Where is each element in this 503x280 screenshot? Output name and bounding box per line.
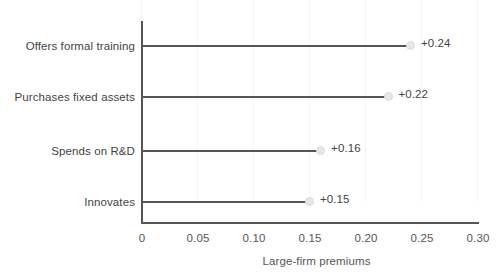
stem-0 [141,45,411,47]
y-axis-label-3: Innovates [0,196,135,208]
stem-2 [141,150,321,152]
stem-1 [141,96,388,98]
data-point-marker-1[interactable] [384,92,393,101]
value-label-1: +0.22 [399,88,429,100]
plot-area: +0.24 +0.22 +0.16 +0.15 [141,21,478,223]
x-tick-label-0: 0 [139,232,146,244]
data-point-marker-0[interactable] [406,41,415,50]
x-tick-label-3: 0.15 [299,232,322,244]
value-label-2: +0.16 [331,142,361,154]
data-point-marker-2[interactable] [316,146,325,155]
x-tick-label-2: 0.10 [243,232,266,244]
y-axis-label-2: Spends on R&D [0,145,135,157]
x-tick-label-4: 0.20 [355,232,378,244]
x-tick-label-5: 0.25 [411,232,434,244]
data-point-marker-3[interactable] [305,197,314,206]
value-label-0: +0.24 [421,37,451,49]
value-label-3: +0.15 [320,193,350,205]
stem-3 [141,201,310,203]
x-tick-label-1: 0.05 [187,232,210,244]
x-tick-label-6: 0.30 [467,232,490,244]
y-axis-label-0: Offers formal training [0,40,135,52]
y-axis-label-1: Purchases fixed assets [0,91,135,103]
x-axis-title: Large-firm premiums [0,255,503,267]
lollipop-chart: Offers formal training Purchases fixed a… [0,0,503,280]
